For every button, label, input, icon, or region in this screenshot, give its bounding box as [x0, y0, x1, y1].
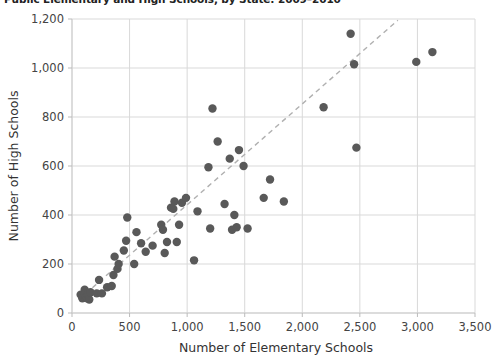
data-point [141, 248, 149, 256]
data-point [95, 276, 103, 284]
data-point [132, 228, 140, 236]
scatter-chart: Public Elementary and High Schools, by S… [0, 0, 504, 362]
y-tick-label: 0 [57, 306, 64, 320]
x-axis-title: Number of Elementary Schools [179, 340, 373, 355]
y-tick-label: 1,200 [31, 12, 64, 26]
data-point [352, 143, 360, 151]
data-point [148, 241, 156, 249]
data-point [235, 146, 243, 154]
data-point [173, 238, 181, 246]
data-point [120, 246, 128, 254]
x-tick-label: 3,000 [401, 320, 434, 334]
data-point [243, 224, 251, 232]
data-point [163, 238, 171, 246]
data-point [204, 163, 212, 171]
data-point [110, 252, 118, 260]
x-tick-label: 2,500 [343, 320, 376, 334]
data-point [114, 260, 122, 268]
data-point [160, 249, 168, 257]
data-point [108, 282, 116, 290]
data-point [190, 256, 198, 264]
x-tick-label: 1,500 [228, 320, 261, 334]
x-axis-tick-labels: 05001,0001,5002,0002,5003,0003,500 [68, 320, 491, 334]
trend-line [79, 20, 398, 299]
data-point [206, 224, 214, 232]
data-point [350, 60, 358, 68]
data-point [226, 154, 234, 162]
x-tick-label: 0 [68, 320, 75, 334]
y-tick-label: 800 [42, 110, 64, 124]
y-axis-title: Number of High Schools [6, 91, 21, 242]
y-tick-label: 1,000 [31, 61, 64, 75]
data-point [232, 223, 240, 231]
data-point [260, 194, 268, 202]
data-point [130, 260, 138, 268]
data-point [230, 211, 238, 219]
data-points [76, 30, 436, 304]
x-tick-label: 500 [119, 320, 141, 334]
data-point [159, 226, 167, 234]
data-point [208, 104, 216, 112]
y-axis-tick-labels: 02004006008001,0001,200 [31, 12, 64, 320]
data-point [170, 197, 178, 205]
data-point [85, 295, 93, 303]
plot-area: 05001,0001,5002,0002,5003,0003,500 02004… [0, 0, 504, 362]
data-point [169, 205, 177, 213]
data-point [122, 237, 130, 245]
data-point [123, 213, 131, 221]
trend-line-segment [79, 20, 398, 299]
data-point [266, 175, 274, 183]
data-point [175, 221, 183, 229]
data-point [193, 207, 201, 215]
data-point [137, 239, 145, 247]
data-point [239, 162, 247, 170]
y-tick-label: 200 [42, 257, 64, 271]
data-point [220, 200, 228, 208]
x-tick-label: 3,500 [459, 320, 492, 334]
data-point [412, 58, 420, 66]
x-tick-label: 1,000 [171, 320, 204, 334]
x-tick-label: 2,000 [286, 320, 319, 334]
data-point [182, 194, 190, 202]
data-point [346, 30, 354, 38]
y-tick-label: 400 [42, 208, 64, 222]
data-point [213, 137, 221, 145]
y-tick-label: 600 [42, 159, 64, 173]
data-point [319, 103, 327, 111]
data-point [280, 197, 288, 205]
data-point [428, 48, 436, 56]
